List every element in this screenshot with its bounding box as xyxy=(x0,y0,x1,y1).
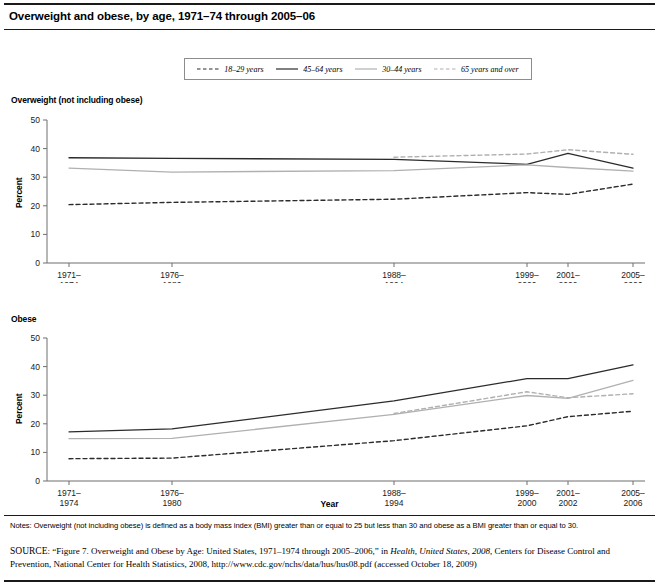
y-axis-tick-label: 40 xyxy=(31,362,41,372)
legend-item: 45–64 years xyxy=(276,65,342,74)
legend-swatch-dashed-icon xyxy=(197,66,219,72)
series-line xyxy=(69,365,633,432)
chart-plot-area: 010203040501971–19741976–19801988–199419… xyxy=(0,108,659,283)
panel-title-overweight: Overweight (not including obese) xyxy=(11,95,142,105)
figure-notes: Notes: Overweight (not including obese) … xyxy=(10,521,649,531)
x-axis-tick-label: 1994 xyxy=(385,280,404,283)
x-axis-tick-label: 2006 xyxy=(624,280,643,283)
legend-label: 45–64 years xyxy=(303,65,342,74)
chart-overweight: 010203040501971–19741976–19801988–199419… xyxy=(0,108,659,283)
x-axis-tick-label: 1980 xyxy=(163,280,182,283)
x-axis-tick-label: 1988– xyxy=(382,488,406,498)
panel-title-obese: Obese xyxy=(11,314,37,324)
legend-swatch-solid-icon xyxy=(276,66,298,72)
x-axis-tick-label: 1971– xyxy=(57,270,81,280)
x-axis-tick-label: 1976– xyxy=(160,270,184,280)
x-axis-tick-label: 2002 xyxy=(559,280,578,283)
top-rule xyxy=(4,3,655,5)
x-axis-tick-label: 1988– xyxy=(382,270,406,280)
x-axis-tick-label: 1974 xyxy=(60,280,79,283)
y-axis-tick-label: 10 xyxy=(31,447,41,457)
source-publication-title: Health, United States, 2008 xyxy=(390,546,490,556)
legend-item: 65 years and over xyxy=(434,65,519,74)
series-line xyxy=(69,165,633,172)
legend-label: 18–29 years xyxy=(224,65,263,74)
figure-title: Overweight and obese, by age, 1971–74 th… xyxy=(9,10,315,22)
series-line xyxy=(394,150,633,157)
x-axis-tick-label: 1999– xyxy=(515,488,539,498)
figure-page: Overweight and obese, by age, 1971–74 th… xyxy=(0,0,659,585)
chart-legend: 18–29 years45–64 years30–44 years65 year… xyxy=(184,58,532,80)
x-axis-tick-label: 1971– xyxy=(57,488,81,498)
y-axis-tick-label: 40 xyxy=(31,144,41,154)
y-axis-tick-label: 30 xyxy=(31,390,41,400)
bottom-rule xyxy=(4,580,655,582)
chart-plot-area: 010203040501971–19741976–19801988–199419… xyxy=(0,326,659,506)
y-axis-tick-label: 20 xyxy=(31,419,41,429)
series-line xyxy=(69,411,633,458)
y-axis-tick-label: 50 xyxy=(31,115,41,125)
y-axis-tick-label: 10 xyxy=(31,229,41,239)
x-axis-tick-label: 1976– xyxy=(160,488,184,498)
legend-item: 30–44 years xyxy=(355,65,421,74)
legend-swatch-dashed-icon xyxy=(434,66,456,72)
x-axis-tick-label: 2005– xyxy=(621,488,645,498)
x-axis-tick-label: 2000 xyxy=(518,280,537,283)
y-axis-tick-label: 50 xyxy=(31,333,41,343)
chart-obese: 010203040501971–19741976–19801988–199419… xyxy=(0,326,659,506)
x-axis-tick-label: 2001– xyxy=(556,488,580,498)
x-axis-tick-label: 2005– xyxy=(621,270,645,280)
source-prefix: SOURCE xyxy=(10,546,47,556)
x-axis-label: Year xyxy=(0,499,659,509)
x-axis-tick-label: 1999– xyxy=(515,270,539,280)
legend-label: 30–44 years xyxy=(382,65,421,74)
title-divider-rule xyxy=(4,29,655,30)
series-line xyxy=(69,184,633,205)
y-axis-tick-label: 30 xyxy=(31,172,41,182)
legend-item: 18–29 years xyxy=(197,65,263,74)
legend-swatch-solid-icon xyxy=(355,66,377,72)
figure-source: SOURCE: “Figure 7. Overweight and Obese … xyxy=(10,545,649,570)
y-axis-tick-label: 0 xyxy=(35,476,40,486)
y-axis-tick-label: 0 xyxy=(35,258,40,268)
x-axis-tick-label: 2001– xyxy=(556,270,580,280)
notes-divider-rule xyxy=(4,515,655,516)
y-axis-tick-label: 20 xyxy=(31,201,41,211)
legend-label: 65 years and over xyxy=(461,65,519,74)
